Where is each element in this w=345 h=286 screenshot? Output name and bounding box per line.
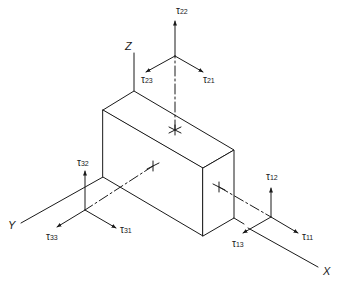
stress-element-diagram: Z Y X τ22 τ23 τ21 τ32 τ33 τ31 τ12 τ13 τ1… [0, 0, 345, 286]
tau31-arrow [85, 210, 116, 228]
x-axis-near-block [234, 218, 244, 224]
tau12-label: τ12 [266, 171, 278, 182]
tau33-label: τ33 [46, 231, 58, 242]
tau33-arrow [57, 210, 85, 227]
tau23-label: τ23 [141, 74, 153, 85]
tau11-arrow [271, 217, 298, 233]
tau21-label: τ21 [203, 74, 215, 85]
z-axis-label: Z [124, 40, 133, 52]
tau32-label: τ32 [77, 157, 89, 168]
tau13-arrow [243, 217, 271, 233]
tau31-label: τ31 [120, 224, 132, 235]
tau13-label: τ13 [232, 238, 244, 249]
x-axis-label: X [322, 265, 331, 277]
tau23-arrow [146, 56, 175, 72]
tau11-label: τ11 [302, 231, 313, 242]
tau21-arrow [175, 56, 203, 72]
tau22-label: τ22 [176, 5, 188, 16]
y-axis-label: Y [8, 219, 16, 231]
y-axis [21, 177, 103, 223]
